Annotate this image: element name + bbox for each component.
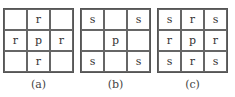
cell: r: [204, 30, 227, 51]
cell: s: [81, 9, 104, 30]
caption-c: (c): [157, 78, 228, 91]
cell: [104, 51, 127, 72]
panel-b: s s p s s (b): [80, 8, 149, 73]
cell: [50, 9, 73, 30]
grid-b: s s p s s: [80, 8, 151, 73]
cell: [4, 9, 27, 30]
cell: s: [127, 51, 150, 72]
cell: r: [181, 51, 204, 72]
cell: [81, 30, 104, 51]
cell: [50, 51, 73, 72]
panel-a: r r p r r (a): [3, 8, 72, 73]
cell: s: [204, 51, 227, 72]
cell: r: [158, 30, 181, 51]
grid-a: r r p r r: [3, 8, 74, 73]
cell: s: [158, 9, 181, 30]
cell: r: [50, 30, 73, 51]
cell: r: [4, 30, 27, 51]
cell: s: [81, 51, 104, 72]
grid-c: s r s r p r s r s: [157, 8, 228, 73]
cell: [127, 30, 150, 51]
panel-c: s r s r p r s r s (c): [157, 8, 226, 73]
cell: s: [158, 51, 181, 72]
cell: p: [181, 30, 204, 51]
cell: r: [27, 51, 50, 72]
caption-a: (a): [3, 78, 74, 91]
cell: r: [181, 9, 204, 30]
cell: [104, 9, 127, 30]
cell: [4, 51, 27, 72]
cell: r: [27, 9, 50, 30]
cell: s: [127, 9, 150, 30]
cell: p: [27, 30, 50, 51]
cell: s: [204, 9, 227, 30]
cell: p: [104, 30, 127, 51]
caption-b: (b): [80, 78, 151, 91]
